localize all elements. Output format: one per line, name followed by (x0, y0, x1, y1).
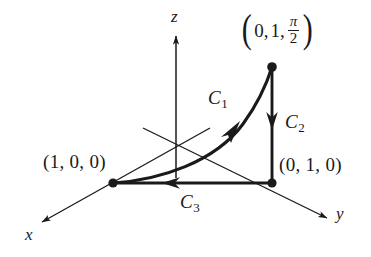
curve-label-c1-subscript: 1 (221, 96, 228, 111)
fraction-numerator-pi: π (288, 14, 300, 30)
curve-c1-group (113, 67, 272, 183)
curve-label-c3-letter: C (180, 191, 193, 212)
curve-label-c1-letter: C (208, 87, 221, 108)
vertex-dot-top (267, 62, 277, 72)
curve-label-c2: C2 (285, 112, 305, 134)
curve-label-c2-subscript: 2 (298, 120, 305, 135)
vertex-dot-x-axis (108, 178, 117, 187)
math-diagram-figure: z x y (1, 0, 0) (0, 1, 0) ( 0, 1, π 2 ) … (0, 0, 371, 257)
curve-c1-path (113, 67, 272, 183)
point-top-second-coord: 1, (271, 21, 285, 40)
axis-label-x: x (25, 226, 33, 243)
fraction-denominator-2: 2 (288, 31, 300, 47)
point-label-1-0-0: (1, 0, 0) (43, 152, 106, 171)
point-label-0-1-0: (0, 1, 0) (279, 155, 342, 174)
curve-label-c1: C1 (208, 88, 228, 110)
point-top-label-inner: 0, 1, π 2 (253, 14, 301, 46)
vertex-dot-y-axis (267, 178, 276, 187)
curve-c2-group (266, 67, 278, 183)
curve-label-c3: C3 (180, 192, 200, 214)
pi-over-2-fraction: π 2 (288, 14, 300, 46)
axis-label-z: z (171, 8, 178, 25)
curve-label-c2-letter: C (285, 111, 298, 132)
curve-label-c3-subscript: 3 (193, 200, 200, 215)
point-label-0-1-pi-over-2: ( 0, 1, π 2 ) (240, 14, 315, 46)
diagram-canvas (0, 0, 371, 257)
point-top-first-coord: 0, (254, 21, 268, 40)
axis-label-y: y (336, 205, 344, 222)
